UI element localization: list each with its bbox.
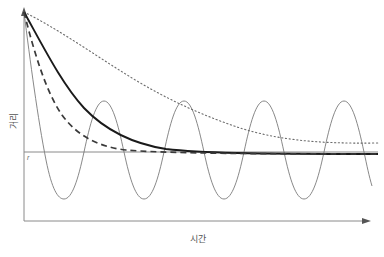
y-axis-label: 거리: [7, 101, 20, 141]
overdamped-curve: [24, 12, 378, 143]
x-axis-label: 시간: [168, 232, 228, 245]
critically-damped-curve: [24, 12, 378, 154]
asymptote-label: r: [27, 154, 29, 161]
fast-decay-curve: [24, 12, 378, 154]
plot-area: [0, 0, 384, 257]
damped-oscillation-chart: 거리 시간 r: [0, 0, 384, 257]
y-axis: [21, 7, 27, 221]
x-axis: [24, 218, 371, 224]
oscillation-curve: [24, 12, 372, 199]
